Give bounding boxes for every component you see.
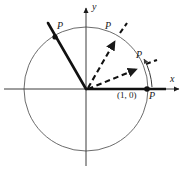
terminal-ray-120deg [48, 23, 86, 89]
terminal-ray-59deg [88, 41, 115, 88]
terminal-ray-22deg-extension [146, 60, 157, 64]
terminal-point-label-p2: P [105, 21, 111, 31]
y-axis-label: y [92, 2, 96, 12]
unit-point-label: (1, 0) [117, 91, 137, 100]
terminal-point-120deg-marker [52, 34, 57, 39]
terminal-point-label-p3: P [136, 50, 142, 60]
terminal-ray-59deg-extension [120, 23, 127, 33]
figure-canvas [0, 0, 189, 175]
x-axis-label: x [170, 74, 174, 84]
terminal-ray-22deg [88, 69, 137, 89]
terminal-point-label-p4: P [149, 91, 155, 101]
terminal-point-label-p1: P [57, 21, 63, 31]
unit-circle-figure: y x P P P P (1, 0) [0, 0, 189, 175]
